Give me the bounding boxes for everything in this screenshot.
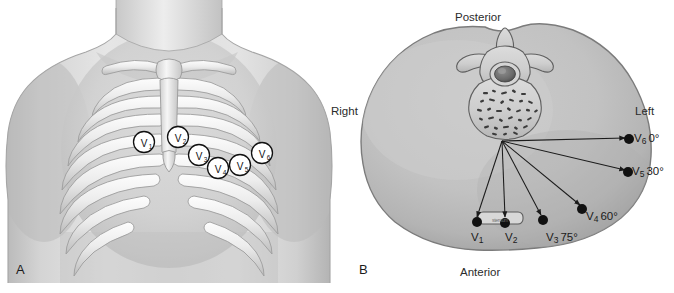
thorax-cross-section-illustration [337,0,674,293]
ecg-precordial-lead-placement-figure: V 1 V 2 V 3 V 4 [0,0,674,293]
sternum-caption: sternum [484,216,516,224]
orientation-label-right: Right [331,105,358,117]
svg-text:5: 5 [245,166,249,173]
electrode-marker-v6[interactable]: V 6 [252,143,273,164]
orientation-label-posterior: Posterior [455,11,501,23]
electrode-marker-v2[interactable]: V 2 [168,127,189,148]
lead-label-v5: V530° [632,165,664,177]
svg-text:V: V [141,138,148,149]
svg-text:V: V [196,151,203,162]
lead-label-v1: V1 [471,231,483,243]
electrode-dot-v1[interactable] [472,217,482,227]
electrode-dot-v6[interactable] [624,134,634,144]
svg-text:6: 6 [267,154,271,161]
lead-label-v4: V460° [586,210,618,222]
lead-label-v2-letter: V [505,231,513,243]
lead-label-v3-sub: 3 [554,235,559,245]
spinal-canal [490,62,520,86]
svg-text:V: V [215,164,222,175]
electrode-dot-v3[interactable] [538,215,548,225]
orientation-label-anterior: Anterior [460,266,500,278]
orientation-label-left: Left [635,105,654,117]
lead-label-v4-angle: 60° [600,210,617,222]
lead-label-v2-sub: 2 [513,235,518,245]
svg-text:V: V [237,161,244,172]
lead-label-v3: V375° [546,231,578,243]
lead-label-v3-letter: V [546,231,554,243]
svg-text:V: V [175,133,182,144]
lead-label-v6-angle: 0° [648,132,659,144]
lead-label-v1-letter: V [471,231,479,243]
electrode-marker-v5[interactable]: V 5 [230,155,251,176]
svg-text:4: 4 [223,169,227,176]
electrode-marker-v4[interactable]: V 4 [208,158,229,179]
lead-label-v6-letter: V [634,132,642,144]
lead-label-v1-sub: 1 [479,235,484,245]
panel-b-cross-section: sternum Posterior Anterior Right Left V6… [337,0,674,293]
lead-label-v2: V2 [505,231,517,243]
panel-a-anterior-chest: V 1 V 2 V 3 V 4 [0,0,337,293]
lead-label-v4-letter: V [586,210,594,222]
anterior-chest-illustration: V 1 V 2 V 3 V 4 [0,0,337,293]
panel-b-letter: B [359,262,368,277]
svg-text:1: 1 [149,143,153,150]
svg-text:3: 3 [204,156,208,163]
svg-text:2: 2 [183,138,187,145]
lead-label-v6: V60° [634,132,659,144]
panel-a-letter: A [16,262,25,277]
lead-label-v4-sub: 4 [594,214,599,224]
svg-text:V: V [259,149,266,160]
lead-label-v5-sub: 5 [640,169,645,179]
lead-label-v5-angle: 30° [646,165,663,177]
lead-label-v3-angle: 75° [560,231,577,243]
electrode-marker-v1[interactable]: V 1 [134,132,155,153]
lead-label-v5-letter: V [632,165,640,177]
lead-label-v6-sub: 6 [642,136,647,146]
electrode-marker-v3[interactable]: V 3 [189,145,210,166]
